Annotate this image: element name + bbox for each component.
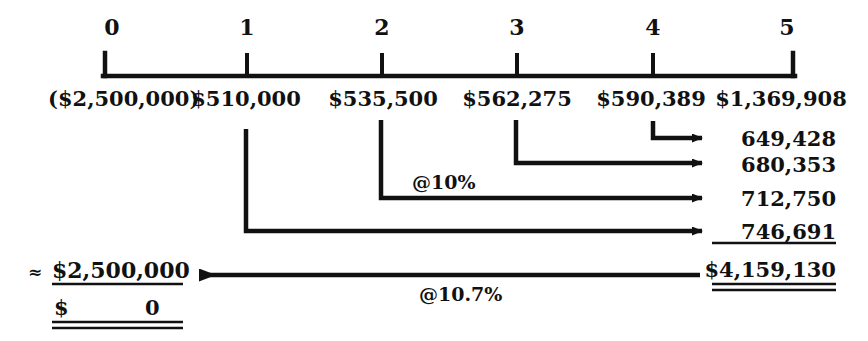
net-present-value-currency: $ bbox=[54, 297, 69, 318]
cash-flow-period-0: ($2,500,000) bbox=[48, 88, 178, 109]
cash-flow-period-1: $510,000 bbox=[186, 88, 306, 109]
future-value-total-rule bbox=[712, 284, 836, 290]
cash-flow-period-2: $535,500 bbox=[320, 88, 446, 109]
cash-flow-period-4: $590,389 bbox=[588, 88, 714, 109]
period-label-2: 2 bbox=[362, 16, 402, 38]
timeline-axis bbox=[103, 53, 795, 76]
cash-flow-period-5: $1,369,908 bbox=[710, 88, 852, 109]
cash-flow-diagram: 0 1 2 3 4 5 bbox=[0, 0, 868, 341]
discount-rate-label: @10.7% bbox=[419, 285, 502, 304]
period-label-4: 4 bbox=[633, 16, 673, 38]
net-present-value-amount: 0 bbox=[145, 297, 160, 318]
compound-rate-label: @10% bbox=[412, 173, 476, 192]
period-label-1: 1 bbox=[227, 16, 267, 38]
future-value-from-period-3: 680,353 bbox=[676, 154, 836, 175]
present-value-total: $2,500,000 bbox=[52, 259, 190, 281]
period-label-3: 3 bbox=[497, 16, 537, 38]
approximately-equal-icon: ≈ bbox=[28, 264, 42, 281]
period-label-0: 0 bbox=[92, 16, 132, 38]
future-value-total: $4,159,130 bbox=[676, 259, 836, 280]
cash-flow-period-3: $562,275 bbox=[454, 88, 580, 109]
future-value-from-period-1: 746,691 bbox=[676, 221, 836, 242]
future-value-from-period-2: 712,750 bbox=[676, 188, 836, 209]
compound-arrow-period-3 bbox=[516, 120, 702, 163]
period-label-5: 5 bbox=[767, 16, 807, 38]
future-value-from-period-4: 649,428 bbox=[676, 128, 836, 149]
net-present-value-rule bbox=[52, 322, 183, 328]
